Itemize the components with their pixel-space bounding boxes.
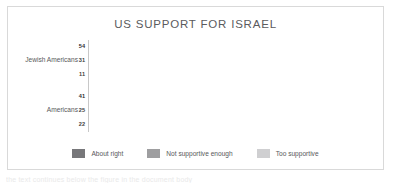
bar-group-americans: Americans 41 25 22	[88, 90, 365, 130]
legend-item-label: Too supportive	[276, 150, 319, 157]
chart-card: US SUPPORT FOR ISRAEL Jewish Americans 5…	[7, 6, 384, 170]
legend-item-not-supportive-enough[interactable]: Not supportive enough	[147, 149, 232, 158]
legend-item-about-right[interactable]: About right	[72, 149, 123, 158]
screenshot-root: US SUPPORT FOR ISRAEL Jewish Americans 5…	[0, 0, 393, 192]
chart-title: US SUPPORT FOR ISRAEL	[8, 18, 383, 30]
legend-item-label: Not supportive enough	[166, 150, 232, 157]
legend-swatch-icon	[72, 149, 85, 158]
bar-value-label: 11	[79, 71, 85, 77]
plot-area: Jewish Americans 54 31 11	[88, 40, 365, 132]
document-body-text: the text continues below the figure in t…	[6, 176, 387, 183]
bar-value-label: 54	[79, 43, 85, 49]
legend-swatch-icon	[257, 149, 270, 158]
legend-swatch-icon	[147, 149, 160, 158]
bar-value-label: 25	[79, 107, 85, 113]
bar-value-label: 31	[79, 57, 85, 63]
category-label: Americans	[0, 106, 78, 113]
bar-group-jewish-americans: Jewish Americans 54 31 11	[88, 40, 365, 80]
bar-value-label: 22	[79, 121, 85, 127]
bar-value-label: 41	[79, 93, 85, 99]
legend-item-too-supportive[interactable]: Too supportive	[257, 149, 319, 158]
chart-legend: About right Not supportive enough Too su…	[8, 149, 383, 158]
legend-item-label: About right	[91, 150, 123, 157]
category-label: Jewish Americans	[0, 56, 78, 63]
